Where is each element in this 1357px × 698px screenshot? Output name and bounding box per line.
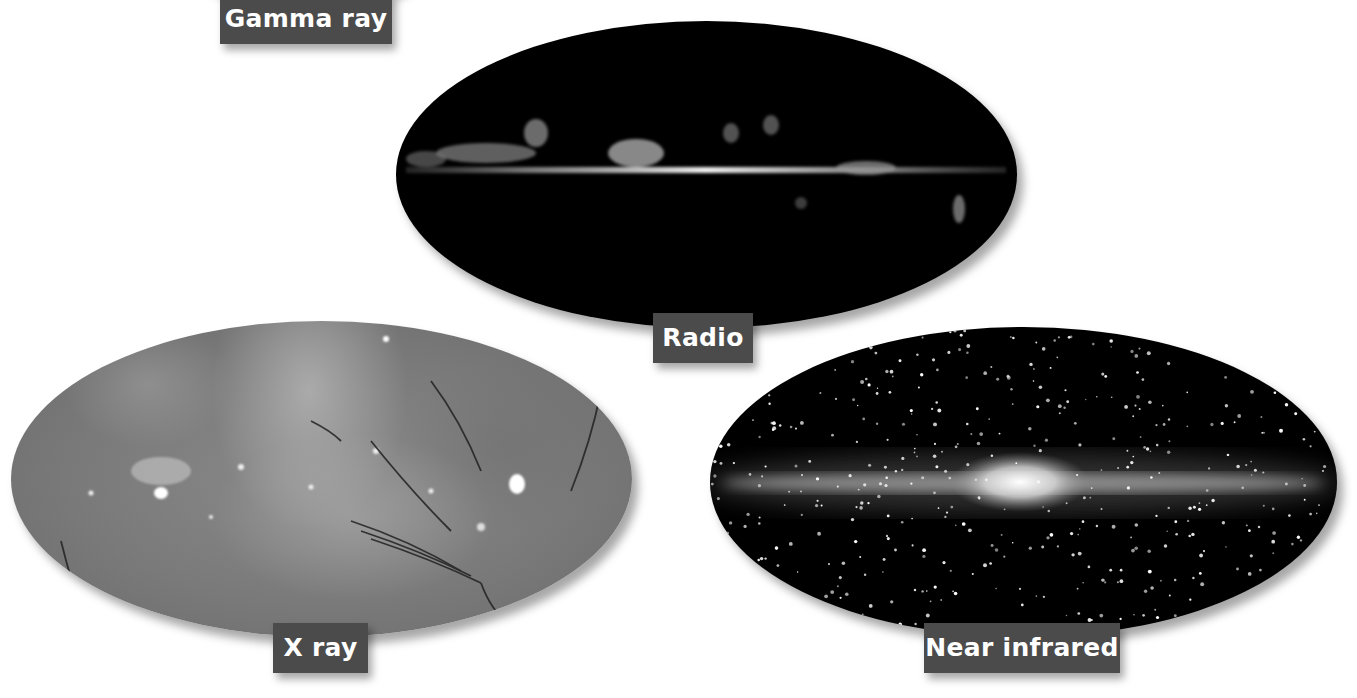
near-infrared-sky-map [710, 327, 1337, 637]
x-ray-sky-map [11, 321, 632, 637]
gamma-ray-label: Gamma ray [220, 0, 392, 44]
near-infrared-galactic-disk [710, 327, 1337, 637]
radio-sky-map [396, 21, 1017, 328]
x-ray-label: X ray [273, 623, 368, 673]
x-ray-features [11, 321, 632, 637]
radio-galactic-plane [396, 21, 1017, 328]
near-infrared-label: Near infrared [924, 623, 1120, 673]
